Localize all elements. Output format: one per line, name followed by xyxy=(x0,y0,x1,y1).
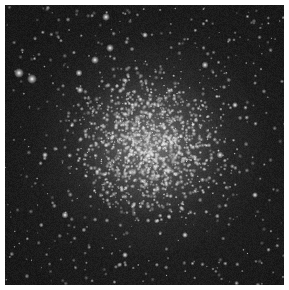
stars-layer xyxy=(5,5,284,285)
star-cluster-image: Grayscale telescope image of a dense glo… xyxy=(5,5,284,285)
